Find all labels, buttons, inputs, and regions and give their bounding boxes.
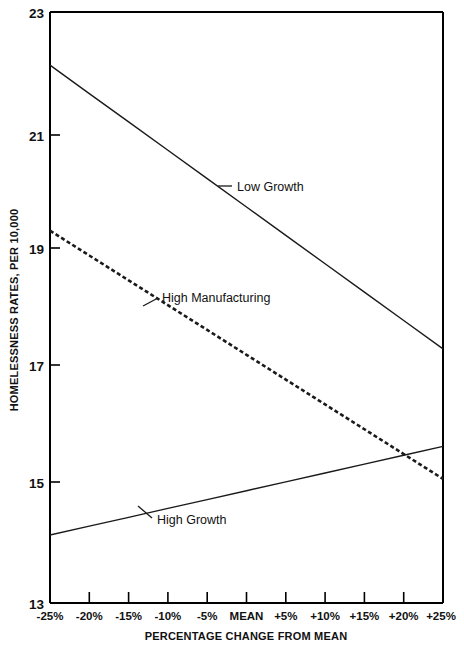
plot-frame	[50, 12, 443, 603]
annotation-label-high-growth: High Growth	[157, 513, 227, 527]
y-tick-labels: 23 21 19 17 15 13	[29, 6, 45, 612]
series-line-high-growth	[50, 446, 443, 535]
y-tick-label-23: 23	[29, 6, 45, 21]
x-tick-label-plus20: +20%	[389, 610, 419, 622]
x-tick-labels: -25% -20% -15% -10% -5% MEAN +5% +10% +1…	[37, 610, 456, 622]
x-tick-label-plus25: +25%	[426, 610, 456, 622]
x-tick-label-plus15: +15%	[350, 610, 380, 622]
annotation-label-low-growth: Low Growth	[237, 180, 304, 194]
series-line-high-manufacturing	[50, 231, 443, 479]
x-tick-label-minus20: -20%	[76, 610, 103, 622]
series-line-low-growth	[50, 65, 443, 349]
y-tick-marks	[50, 135, 60, 482]
y-tick-label-15: 15	[29, 476, 45, 491]
chart-container: 23 21 19 17 15 13 -25% -20% -15% -10% -5…	[0, 0, 464, 647]
y-tick-label-21: 21	[29, 129, 45, 144]
x-tick-label-plus10: +10%	[310, 610, 340, 622]
x-tick-label-minus15: -15%	[115, 610, 142, 622]
homelessness-rates-line-chart: 23 21 19 17 15 13 -25% -20% -15% -10% -5…	[0, 0, 464, 647]
annotation-high-manufacturing: High Manufacturing	[143, 291, 270, 306]
x-tick-marks	[89, 592, 403, 603]
y-tick-label-19: 19	[29, 242, 44, 257]
y-tick-label-17: 17	[29, 359, 44, 374]
y-axis-title: HOMELESSNESS RATES, PER 10,000	[8, 209, 20, 412]
annotation-label-high-manufacturing: High Manufacturing	[162, 291, 270, 305]
x-tick-label-minus10: -10%	[154, 610, 181, 622]
x-axis-title: PERCENTAGE CHANGE FROM MEAN	[145, 630, 348, 642]
leader-line-high-manufacturing	[143, 298, 158, 306]
annotation-low-growth: Low Growth	[218, 180, 304, 194]
x-tick-label-minus25: -25%	[37, 610, 64, 622]
x-tick-label-minus5: -5%	[197, 610, 217, 622]
x-tick-label-mean: MEAN	[230, 610, 264, 622]
x-tick-label-plus5: +5%	[274, 610, 297, 622]
annotation-high-growth: High Growth	[138, 506, 227, 527]
